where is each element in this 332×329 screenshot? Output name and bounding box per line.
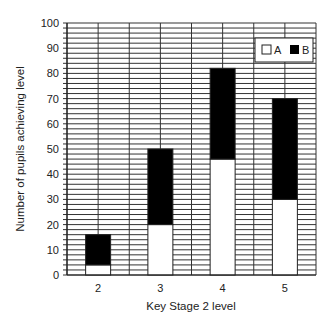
legend-swatch-b-icon <box>290 45 299 54</box>
y-tick-label: 80 <box>47 67 59 79</box>
bar-2-b <box>86 235 111 265</box>
bar-4-a <box>210 159 235 275</box>
y-tick-label: 40 <box>47 168 59 180</box>
y-tick-label: 10 <box>47 244 59 256</box>
y-tick-label: 20 <box>47 219 59 231</box>
bar-5-a <box>272 199 297 275</box>
y-tick-label: 30 <box>47 193 59 205</box>
bar-3-a <box>148 225 173 275</box>
stacked-bar-chart: 0102030405060708090100 2345 Key Stage 2 … <box>0 0 332 329</box>
x-tick-labels: 2345 <box>95 282 288 294</box>
legend: A B <box>255 38 313 62</box>
x-tick-label: 2 <box>95 282 101 294</box>
y-tick-label: 100 <box>41 17 59 29</box>
bar-5-b <box>272 99 297 200</box>
x-tick-label: 4 <box>220 282 226 294</box>
legend-label-a: A <box>274 44 282 56</box>
legend-label-b: B <box>302 44 309 56</box>
y-tick-label: 0 <box>53 269 59 281</box>
bar-2-a <box>86 265 111 275</box>
y-tick-label: 60 <box>47 118 59 130</box>
y-tick-label: 90 <box>47 42 59 54</box>
x-tick-label: 5 <box>282 282 288 294</box>
legend-swatch-a-icon <box>262 45 271 54</box>
y-axis-title: Number of pupils achieving level <box>14 66 26 232</box>
y-tick-label: 70 <box>47 93 59 105</box>
x-axis-title: Key Stage 2 level <box>146 300 236 312</box>
bar-3-b <box>148 149 173 225</box>
y-tick-label: 50 <box>47 143 59 155</box>
x-tick-label: 3 <box>157 282 163 294</box>
y-tick-labels: 0102030405060708090100 <box>41 17 59 281</box>
bar-4-b <box>210 68 235 159</box>
